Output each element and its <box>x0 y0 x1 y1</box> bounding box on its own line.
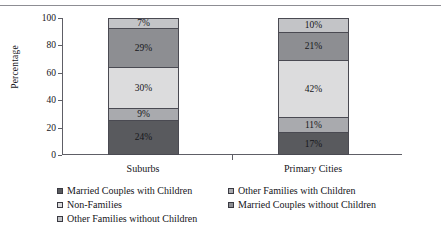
bar-segment-label: 11% <box>305 120 322 130</box>
x-tick-label-suburbs: Suburbs <box>83 163 203 174</box>
legend-item-married-couples-with-children[interactable]: Married Couples with Children <box>57 185 192 196</box>
legend-item-label: Non-Families <box>67 199 122 210</box>
bar-segment-label: 9% <box>137 109 150 119</box>
plot-area: Percentage 100 80 60 40 20 0 7% 29% 30% <box>0 0 441 180</box>
bar-segment-primary-cities-other-families-with-children[interactable]: 11% <box>279 118 348 133</box>
legend-item-other-families-with-children[interactable]: Other Families with Children <box>228 185 356 196</box>
legend-item-label: Other Families without Children <box>67 213 197 224</box>
legend-item-label: Married Couples with Children <box>67 185 192 196</box>
legend-swatch-icon <box>57 216 63 222</box>
legend-item-non-families[interactable]: Non-Families <box>57 199 122 210</box>
chart-legend: Married Couples with Children Non-Famili… <box>0 183 441 235</box>
x-tick-label-primary-cities: Primary Cities <box>253 163 373 174</box>
bar-segment-suburbs-other-families-without-children[interactable]: 7% <box>109 19 178 29</box>
bar-segment-suburbs-married-couples-with-children[interactable]: 24% <box>109 121 178 154</box>
legend-item-label: Married Couples without Children <box>238 199 376 210</box>
y-tick-label-40: 40 <box>30 95 56 105</box>
bar-segment-label: 10% <box>305 20 322 30</box>
bar-segment-label: 7% <box>137 19 150 28</box>
y-axis-line <box>62 18 63 155</box>
bar-segment-label: 24% <box>135 132 152 142</box>
legend-swatch-icon <box>228 188 234 194</box>
bar-segment-primary-cities-non-families[interactable]: 42% <box>279 61 348 118</box>
bar-segment-label: 17% <box>305 139 322 149</box>
bar-segment-label: 42% <box>305 84 322 94</box>
bar-segment-suburbs-married-couples-without-children[interactable]: 29% <box>109 29 178 68</box>
y-tick-label-20: 20 <box>30 123 56 133</box>
bar-segment-label: 29% <box>135 43 152 53</box>
y-tick-label-0: 0 <box>30 150 56 160</box>
legend-swatch-icon <box>228 202 234 208</box>
bar-segment-label: 30% <box>135 83 152 93</box>
bar-primary-cities[interactable]: 10% 21% 42% 11% 17% <box>278 18 349 155</box>
bar-segment-primary-cities-other-families-without-children[interactable]: 10% <box>279 19 348 33</box>
y-tick-label-100: 100 <box>30 13 56 23</box>
bar-segment-suburbs-non-families[interactable]: 30% <box>109 68 178 109</box>
bar-segment-suburbs-other-families-with-children[interactable]: 9% <box>109 109 178 121</box>
y-axis-title: Percentage <box>10 27 20 107</box>
bar-segment-primary-cities-married-couples-without-children[interactable]: 21% <box>279 33 348 62</box>
legend-item-married-couples-without-children[interactable]: Married Couples without Children <box>228 199 376 210</box>
bar-segment-label: 21% <box>305 41 322 51</box>
y-tick-label-80: 80 <box>30 40 56 50</box>
x-axis-mid-tick <box>232 155 233 160</box>
chart-page: Percentage 100 80 60 40 20 0 7% 29% 30% <box>0 0 441 235</box>
legend-item-label: Other Families with Children <box>238 185 356 196</box>
y-tick-label-60: 60 <box>30 68 56 78</box>
bar-segment-primary-cities-married-couples-with-children[interactable]: 17% <box>279 133 348 154</box>
legend-item-other-families-without-children[interactable]: Other Families without Children <box>57 213 197 224</box>
bar-suburbs[interactable]: 7% 29% 30% 9% 24% <box>108 18 179 155</box>
legend-swatch-icon <box>57 202 63 208</box>
legend-swatch-icon <box>57 188 63 194</box>
